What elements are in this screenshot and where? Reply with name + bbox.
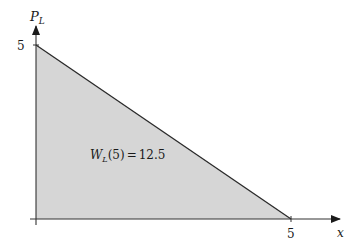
y-tick-label: 5 xyxy=(17,39,25,53)
x-tick-label: 5 xyxy=(287,227,295,241)
area-annotation: WL(5)=12.5 xyxy=(90,148,165,164)
x-axis-label: x xyxy=(337,226,344,240)
diagram-canvas: PL 5 5 x WL(5)=12.5 xyxy=(0,0,364,252)
y-axis-label: PL xyxy=(29,9,45,26)
